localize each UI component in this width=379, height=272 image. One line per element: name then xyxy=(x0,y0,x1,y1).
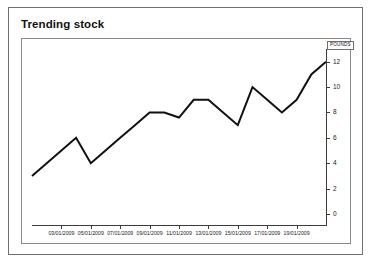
line-chart-svg xyxy=(32,49,326,214)
y-axis-tick xyxy=(326,138,330,139)
y-axis-tick xyxy=(326,87,330,88)
y-axis-tick xyxy=(326,214,330,215)
y-axis-tick-label: 12 xyxy=(333,58,340,65)
x-axis-tick-label: 15/01/2009 xyxy=(225,231,251,236)
units-badge: POUNDS xyxy=(327,41,354,50)
chart-plot-area xyxy=(32,49,326,214)
y-axis-tick-label: 0 xyxy=(333,211,337,218)
chart-plot-frame: POUNDS 024681012 03/01/200905/01/200907/… xyxy=(21,38,351,244)
x-axis-tick xyxy=(120,225,121,229)
x-axis-tick-label: 13/01/2009 xyxy=(195,231,221,236)
x-axis-tick xyxy=(208,225,209,229)
x-axis-tick-label: 09/01/2009 xyxy=(137,231,163,236)
x-axis-tick xyxy=(238,225,239,229)
x-axis-tick xyxy=(91,225,92,229)
y-axis-tick-label: 10 xyxy=(333,84,340,91)
data-series-line xyxy=(32,62,326,176)
x-axis-tick xyxy=(150,225,151,229)
x-axis-tick-label: 17/01/2009 xyxy=(254,231,280,236)
y-axis-tick-label: 8 xyxy=(333,109,337,116)
y-axis-tick-label: 4 xyxy=(333,160,337,167)
y-axis-tick xyxy=(326,189,330,190)
x-axis-tick xyxy=(61,225,62,229)
x-axis-tick-label: 19/01/2009 xyxy=(284,231,310,236)
x-axis-tick-label: 05/01/2009 xyxy=(78,231,104,236)
x-axis-tick-label: 03/01/2009 xyxy=(48,231,74,236)
x-axis-tick xyxy=(297,225,298,229)
y-axis-tick-label: 2 xyxy=(333,185,337,192)
x-axis-tick xyxy=(179,225,180,229)
chart-card: Trending stock POUNDS 024681012 03/01/20… xyxy=(8,7,363,255)
y-axis-tick xyxy=(326,112,330,113)
y-axis-tick-label: 6 xyxy=(333,135,337,142)
x-axis-tick xyxy=(267,225,268,229)
page-title: Trending stock xyxy=(21,18,104,30)
x-axis-tick-label: 07/01/2009 xyxy=(107,231,133,236)
y-axis-tick xyxy=(326,163,330,164)
y-axis-tick xyxy=(326,62,330,63)
x-axis-tick-label: 11/01/2009 xyxy=(166,231,192,236)
